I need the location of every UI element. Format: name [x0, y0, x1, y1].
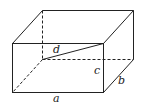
box-drawing [0, 0, 144, 108]
top-face [13, 11, 134, 44]
hidden-depth-edge [13, 60, 43, 93]
diagonal-d [43, 44, 104, 60]
label-d: d [53, 44, 60, 55]
label-a: a [53, 93, 60, 104]
label-b: b [118, 75, 125, 86]
box-diagram: d c b a [0, 0, 144, 108]
label-c: c [94, 65, 100, 76]
